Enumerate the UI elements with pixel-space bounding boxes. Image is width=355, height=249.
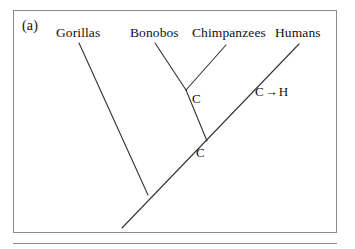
taxon-label-chimpanzees: Chimpanzees [192, 25, 266, 41]
taxon-label-gorillas: Gorillas [56, 25, 100, 41]
annotation-c-to-h-source: C [255, 84, 264, 100]
figure-root: (a) Gorillas Bonobos Chimpanzees Humans … [0, 0, 355, 249]
panel-label: (a) [22, 18, 38, 34]
branch-human-root-lineage [122, 44, 299, 228]
bottom-divider [13, 243, 337, 244]
branch-chimpanzees [186, 45, 226, 90]
branch-bonobos [155, 43, 186, 90]
node-annotation-c-lower: C [196, 145, 205, 161]
node-annotation-c-upper: C [192, 91, 201, 107]
right-arrow-icon: → [265, 85, 278, 98]
taxon-label-bonobos: Bonobos [130, 25, 179, 41]
branch-gorillas [79, 43, 148, 195]
annotation-c-to-h: C → H [255, 84, 288, 100]
annotation-c-to-h-target: H [279, 84, 288, 100]
taxon-label-humans: Humans [275, 25, 321, 41]
